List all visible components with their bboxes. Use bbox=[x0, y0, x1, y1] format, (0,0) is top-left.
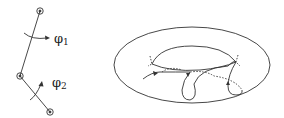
left-pinch-mark bbox=[148, 56, 152, 66]
trajectory-solid-2 bbox=[190, 62, 236, 101]
phi1-label: φ1 bbox=[54, 32, 69, 47]
phi2-label: φ2 bbox=[52, 76, 67, 91]
torus bbox=[114, 27, 270, 103]
phi2-arrow bbox=[30, 84, 41, 100]
middle-joint bbox=[17, 73, 23, 79]
diagram-canvas bbox=[0, 0, 284, 118]
double-pendulum bbox=[17, 8, 53, 115]
torus-outer-rim bbox=[114, 27, 270, 103]
trajectory-solid bbox=[143, 72, 190, 100]
top-pivot bbox=[37, 8, 43, 14]
phi1-arrowhead bbox=[45, 36, 50, 41]
pendulum-rod-2 bbox=[20, 76, 50, 112]
phi1-arrow bbox=[24, 33, 47, 38]
trajectory-arrowhead-3 bbox=[226, 81, 230, 85]
pendulum-rod-1 bbox=[20, 11, 40, 76]
phi2-arrowhead bbox=[39, 81, 44, 87]
right-pinch-mark bbox=[236, 55, 240, 66]
bottom-bob bbox=[47, 109, 53, 115]
trajectory-solid-3 bbox=[228, 62, 242, 95]
torus-inner-hole-top bbox=[152, 46, 236, 64]
trajectory-dotted-2 bbox=[190, 72, 242, 91]
